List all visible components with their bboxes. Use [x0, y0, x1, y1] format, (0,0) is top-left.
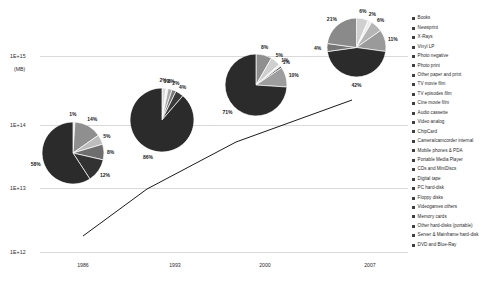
pie-slice-label: 71% — [223, 109, 233, 115]
pie-slice-label: 42% — [352, 82, 362, 88]
legend-swatch-icon — [412, 64, 415, 67]
legend-item-label: Floppy disks — [418, 196, 444, 201]
legend-item-label: Vinyl LP — [418, 45, 435, 50]
pie-slice-label: 6% — [359, 8, 366, 14]
legend-swatch-icon — [412, 187, 415, 190]
pie-slices — [225, 54, 287, 116]
legend-swatch-icon — [412, 46, 415, 49]
legend-item-label: TV movie film — [418, 82, 446, 87]
legend-item[interactable]: X-Rays — [412, 33, 501, 42]
legend-item-label: Other hard-disks (portable) — [418, 224, 473, 229]
legend-item[interactable]: Portable Media Player — [412, 156, 501, 165]
legend-swatch-icon — [412, 197, 415, 200]
pie-slices — [327, 18, 386, 77]
legend-item[interactable]: DVD and Blue-Ray — [412, 241, 501, 250]
legend-swatch-icon — [412, 178, 415, 181]
legend-item-label: PC hard-disk — [418, 186, 445, 191]
legend-swatch-icon — [412, 93, 415, 96]
legend-swatch-icon — [412, 83, 415, 86]
legend-swatch-icon — [412, 55, 415, 58]
legend-item[interactable]: Photo print — [412, 61, 501, 70]
pie-slices — [42, 122, 104, 184]
legend-swatch-icon — [412, 112, 415, 115]
legend-item-label: Other paper and print — [418, 73, 462, 78]
legend-item[interactable]: Mobile phones & PDA — [412, 146, 501, 155]
pie-slice-label: 1% — [283, 59, 290, 65]
legend-item-label: Video analog — [418, 120, 445, 125]
pie-slice-label: 14% — [87, 116, 97, 122]
pie-chart-1993: 2%1%2%2%4%86% — [130, 88, 194, 152]
pie-slice-label: 4% — [314, 45, 321, 51]
legend-item-label: Camera/camcorder internal — [418, 139, 474, 144]
legend-item[interactable]: Memory cards — [412, 212, 501, 221]
legend-item[interactable]: Videogames others — [412, 203, 501, 212]
legend-item-label: Memory cards — [418, 215, 447, 220]
pie-slice-label: 6% — [377, 17, 384, 23]
legend-item[interactable]: Cine movie film — [412, 99, 501, 108]
legend-item[interactable]: TV movie film — [412, 80, 501, 89]
legend-item[interactable]: TV episodes film — [412, 90, 501, 99]
legend-swatch-icon — [412, 244, 415, 247]
legend-item[interactable]: Other paper and print — [412, 71, 501, 80]
legend-item-label: Photo print — [418, 64, 440, 69]
pie-slice — [130, 88, 194, 152]
legend-item[interactable]: PC hard-disk — [412, 184, 501, 193]
pie-chart-2000: 8%5%1%1%10%71% — [225, 54, 287, 116]
trend-line-path — [83, 100, 352, 236]
legend-swatch-icon — [412, 234, 415, 237]
legend-swatch-icon — [412, 140, 415, 143]
legend-swatch-icon — [412, 149, 415, 152]
legend-item[interactable]: Camera/camcorder internal — [412, 137, 501, 146]
legend-swatch-icon — [412, 130, 415, 133]
legend-item[interactable]: Other hard-disks (portable) — [412, 222, 501, 231]
legend-item[interactable]: Server & Mainframe hard-disk — [412, 231, 501, 240]
pie-slice-label: 21% — [327, 16, 337, 22]
legend-item-label: Audio cassette — [418, 111, 448, 116]
pie-slice-label: 5% — [103, 133, 110, 139]
pie-slice — [327, 18, 356, 48]
legend-swatch-icon — [412, 27, 415, 30]
pie-slice-label: 8% — [107, 149, 114, 155]
legend-swatch-icon — [412, 17, 415, 20]
pie-slice-label: 86% — [143, 154, 153, 160]
legend-swatch-icon — [412, 215, 415, 218]
legend-item-label: Mobile phones & PDA — [418, 149, 463, 154]
pie-chart-2007: 6%2%6%11%42%4%21% — [327, 18, 386, 77]
legend-item-label: Server & Mainframe hard-disk — [418, 233, 479, 238]
legend-swatch-icon — [412, 74, 415, 77]
pie-slice-label: 58% — [31, 161, 41, 167]
legend-item-label: Cine movie film — [418, 101, 449, 106]
legend-item-label: DVD and Blue-Ray — [418, 243, 457, 248]
legend-item[interactable]: Newsprint — [412, 23, 501, 32]
chart-plot-area: 1E+15 (MB) 1E+14 1E+13 1E+12 1986 1993 2… — [0, 0, 410, 284]
legend-item[interactable]: Floppy disks — [412, 193, 501, 202]
pie-slice-label: 12% — [100, 172, 110, 178]
legend-item-label: Portable Media Player — [418, 158, 463, 163]
legend-item-label: Digital tape — [418, 177, 441, 182]
legend-item[interactable]: Digital tape — [412, 174, 501, 183]
legend-item-label: Videogames others — [418, 205, 458, 210]
pie-slice-label: 1% — [69, 111, 76, 117]
legend-swatch-icon — [412, 159, 415, 162]
pie-chart-1986: 1%14%5%8%12%58% — [42, 122, 104, 184]
chart-legend: BooksNewsprintX-RaysVinyl LPPhoto negati… — [412, 14, 501, 250]
legend-item[interactable]: ChipCard — [412, 127, 501, 136]
legend-swatch-icon — [412, 121, 415, 124]
legend-item[interactable]: Audio cassette — [412, 108, 501, 117]
legend-item[interactable]: CDs and MiniDiscs — [412, 165, 501, 174]
legend-swatch-icon — [412, 206, 415, 209]
legend-item-label: CDs and MiniDiscs — [418, 167, 457, 172]
legend-swatch-icon — [412, 168, 415, 171]
legend-item-label: ChipCard — [418, 130, 437, 135]
legend-item[interactable]: Vinyl LP — [412, 42, 501, 51]
pie-slice-label: 2% — [369, 11, 376, 17]
legend-item-label: TV episodes film — [418, 92, 452, 97]
legend-item[interactable]: Books — [412, 14, 501, 23]
pie-slices — [130, 88, 194, 152]
legend-swatch-icon — [412, 102, 415, 105]
pie-slice-label: 8% — [261, 44, 268, 50]
legend-item[interactable]: Video analog — [412, 118, 501, 127]
legend-item[interactable]: Photo negative — [412, 52, 501, 61]
pie-slice-label: 11% — [388, 36, 398, 42]
legend-swatch-icon — [412, 36, 415, 39]
